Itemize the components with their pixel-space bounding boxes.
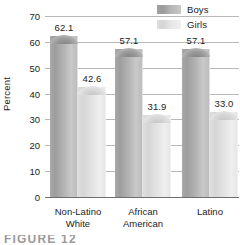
y-tick-label-40: 40 — [14, 88, 40, 99]
axis-baseline — [45, 197, 239, 198]
figure-caption-text: FIGURE 12 — [4, 235, 124, 245]
bar-body — [115, 49, 143, 197]
bar-body — [182, 49, 210, 197]
y-tick-label-20: 20 — [14, 140, 40, 151]
bar-body — [143, 115, 171, 197]
plot-area: 62.142.657.131.957.133.0 — [45, 16, 239, 197]
y-tick-label-70: 70 — [14, 11, 40, 22]
y-tick-label-30: 30 — [14, 114, 40, 125]
bar-value-label: 62.1 — [55, 22, 74, 33]
bar-value-label: 33.0 — [215, 98, 234, 109]
x-category-label-line: American — [98, 218, 188, 230]
bar-boys-1: 57.1 — [115, 49, 143, 197]
legend-label-boys: Boys — [187, 4, 209, 15]
y-tick-label-10: 10 — [14, 166, 40, 177]
x-category-label-2: Latino — [165, 206, 240, 218]
figure-container: Percent 010203040506070 62.142.657.131.9… — [0, 0, 240, 245]
legend-item-girls: Girls — [157, 18, 239, 31]
bar-girls-0: 42.6 — [78, 87, 106, 197]
bar-girls-2: 33.0 — [210, 112, 238, 197]
legend-item-boys: Boys — [157, 3, 239, 16]
bar-body — [78, 87, 106, 197]
bar-value-label: 42.6 — [83, 73, 102, 84]
bar-body — [50, 36, 78, 197]
y-tick-label-50: 50 — [14, 62, 40, 73]
bar-boys-0: 62.1 — [50, 36, 78, 197]
legend-swatch-girls-icon — [157, 20, 181, 29]
bar-girls-1: 31.9 — [143, 115, 171, 197]
bars-group: 62.142.657.131.957.133.0 — [45, 16, 239, 197]
bar-body — [210, 112, 238, 197]
bar-value-label: 57.1 — [120, 35, 139, 46]
bar-value-label: 31.9 — [148, 101, 167, 112]
legend: Boys Girls — [157, 3, 239, 33]
y-tick-label-0: 0 — [14, 192, 40, 203]
bar-top-cap — [182, 48, 210, 57]
bar-top-cap — [115, 48, 143, 57]
x-category-label-line: Latino — [165, 206, 240, 218]
x-axis-category-labels: Non-LatinoWhiteAfricanAmericanLatino — [45, 200, 239, 234]
legend-swatch-boys-icon — [157, 5, 181, 14]
bar-value-label: 57.1 — [187, 35, 206, 46]
y-tick-label-60: 60 — [14, 36, 40, 47]
bar-top-cap — [50, 35, 78, 44]
bar-boys-2: 57.1 — [182, 49, 210, 197]
figure-caption-clipped: FIGURE 12 — [4, 235, 124, 245]
legend-label-girls: Girls — [187, 19, 207, 30]
